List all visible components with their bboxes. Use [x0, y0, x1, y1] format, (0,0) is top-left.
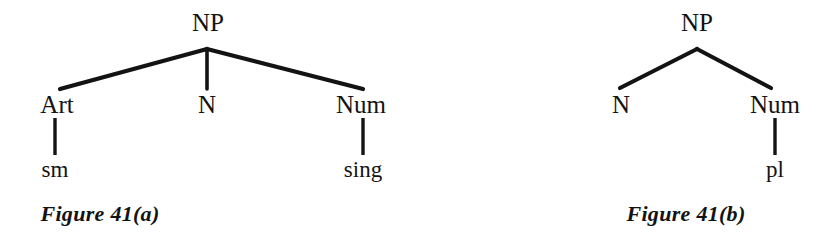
branch-b-np-n: [620, 49, 697, 88]
branch-np-num: [207, 49, 363, 89]
branch-b-np-num: [697, 49, 771, 88]
terminal-pl: pl: [766, 158, 784, 181]
node-np-root-a: NP: [192, 10, 224, 35]
node-num-a: Num: [336, 92, 386, 117]
branch-np-art: [60, 49, 207, 89]
node-n-a: N: [198, 92, 216, 117]
node-np-root-b: NP: [681, 10, 713, 35]
node-num-b: Num: [750, 92, 800, 117]
figure-canvas: NP Art N Num sm sing Figure 41(a) NP N N…: [0, 0, 832, 239]
caption-figure-41b: Figure 41(b): [626, 203, 745, 225]
node-n-b: N: [612, 92, 630, 117]
terminal-sm: sm: [42, 158, 69, 181]
caption-figure-41a: Figure 41(a): [40, 203, 159, 225]
terminal-sing: sing: [344, 158, 382, 181]
node-art: Art: [40, 92, 73, 117]
